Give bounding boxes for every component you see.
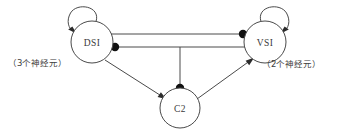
node-c2[interactable]: C2 [160, 88, 200, 128]
edge-dsi-to-vsi [110, 30, 250, 38]
diagram-canvas: DSI VSI C2 （3个神经元） （2个神经元） [0, 0, 349, 134]
edge-dsi-to-c2-line [105, 60, 163, 97]
edge-c2-to-vsi-line [197, 60, 251, 99]
edge-c2-to-vsi [197, 58, 254, 99]
vsi-neuron-count-label: （2个神经元） [262, 57, 321, 69]
node-dsi[interactable]: DSI [71, 21, 113, 63]
dsi-neuron-count-label: （3个神经元） [8, 56, 67, 68]
node-vsi-label: VSI [257, 38, 274, 48]
node-dsi-label: DSI [84, 38, 101, 48]
edge-dsi-to-c2 [105, 60, 167, 99]
node-c2-label: C2 [174, 104, 186, 114]
edge-branch-to-c2 [176, 47, 184, 92]
